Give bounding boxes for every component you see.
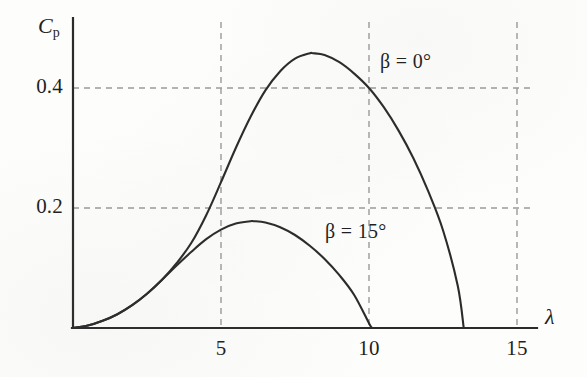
chart-plot [0,0,587,377]
x-tick-label-10: 10 [344,336,394,361]
y-axis-title-main: C [38,13,53,38]
beta-15-label: β = 15° [325,220,387,243]
y-axis-title-subscript: p [53,25,60,40]
y-axis-title: Cp [38,13,60,41]
gridlines-group [73,22,531,328]
beta-0-label: β = 0° [380,50,431,73]
y-tick-label-0-4: 0.4 [36,74,63,99]
curve-series-1 [73,53,464,328]
x-tick-label-5: 5 [196,336,246,361]
figure-canvas: 0.40.251015Cpλβ = 0°β = 15° [0,0,587,377]
curves-group [73,53,464,328]
y-tick-label-0-2: 0.2 [36,194,63,219]
axes-group [72,18,537,328]
x-tick-label-15: 15 [492,336,542,361]
x-axis-title: λ [545,304,555,330]
